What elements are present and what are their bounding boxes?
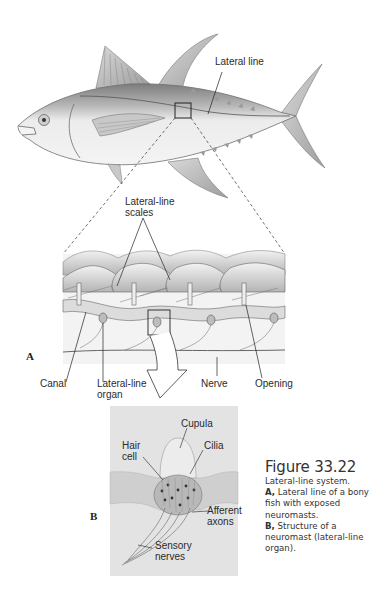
label-cupula: Cupula: [181, 418, 213, 429]
label-nerve: Nerve: [201, 378, 228, 389]
label-sensory-nerves: Sensory nerves: [155, 540, 192, 562]
caption-part-a-letter: A,: [265, 487, 275, 497]
label-hair-line1: Hair: [122, 440, 140, 451]
label-sensory-line2: nerves: [155, 551, 192, 562]
panel-b-letter: B: [90, 510, 97, 522]
caption-body: Lateral-line system. A, Lateral line of …: [265, 476, 370, 554]
caption-part-a-text: Lateral line of a bony fish with exposed…: [265, 487, 369, 519]
figure-number: Figure 33.22: [265, 458, 370, 476]
label-afferent-axons: Afferent axons: [207, 505, 242, 527]
label-hair-line2: cell: [122, 451, 140, 462]
figure-caption: Figure 33.22 Lateral-line system. A, Lat…: [265, 458, 370, 554]
label-cilia: Cilia: [204, 440, 223, 451]
label-organ-line2: organ: [97, 389, 146, 400]
caption-part-b-text: Structure of a neuromast (lateral-line o…: [265, 521, 363, 553]
label-lateral-line-organ: Lateral-line organ: [97, 378, 146, 400]
label-organ-line1: Lateral-line: [97, 378, 146, 389]
label-hair-cell: Hair cell: [122, 440, 140, 462]
label-scales-line1: Lateral-line: [125, 196, 174, 207]
label-sensory-line1: Sensory: [155, 540, 192, 551]
panel-a-letter: A: [26, 350, 34, 362]
label-scales-line2: scales: [125, 207, 174, 218]
caption-part-b-letter: B,: [265, 521, 275, 531]
label-opening: Opening: [255, 378, 293, 389]
caption-title: Lateral-line system.: [265, 476, 350, 486]
label-canal: Canal: [40, 378, 66, 389]
label-lateral-line: Lateral line: [215, 56, 264, 67]
label-afferent-line1: Afferent: [207, 505, 242, 516]
label-lateral-line-scales: Lateral-line scales: [125, 196, 174, 218]
label-afferent-line2: axons: [207, 516, 242, 527]
